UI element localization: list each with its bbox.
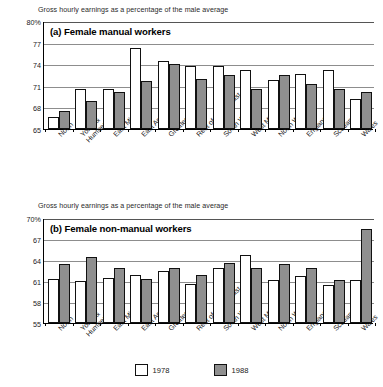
bar-1978 (158, 61, 169, 129)
bar-group (210, 219, 238, 323)
bar-group (73, 22, 101, 129)
bar-group (45, 22, 73, 129)
bar-1978 (350, 280, 361, 323)
chart-a-caption: Gross hourly earnings as a percentage of… (38, 6, 228, 14)
bar-1988 (279, 75, 290, 129)
bar-group (238, 219, 266, 323)
legend-swatch-1978 (135, 364, 148, 376)
bar-1988 (306, 84, 317, 129)
legend-label-1978: 1978 (153, 366, 170, 375)
bar-1988 (169, 64, 180, 129)
bar-1978 (130, 48, 141, 129)
chart-b-caption: Gross hourly earnings as a percentage of… (38, 202, 228, 210)
chart-a-bars (45, 22, 373, 129)
bar-group (183, 22, 211, 129)
bar-1988 (169, 268, 180, 323)
bar-1978 (158, 271, 169, 324)
bar-1978 (213, 268, 224, 323)
bar-group (100, 219, 128, 323)
y-axis-tick-label: 55 (33, 320, 41, 329)
y-axis-tick-label: 70% (27, 215, 41, 224)
bar-1988 (114, 92, 125, 129)
bar-1978 (350, 99, 361, 129)
legend-item-1988: 1988 (214, 364, 249, 376)
bar-group (265, 219, 293, 323)
bar-1978 (268, 280, 279, 323)
bar-1978 (295, 74, 306, 129)
bar-1988 (141, 81, 152, 129)
bar-1978 (75, 89, 86, 129)
bar-group (100, 22, 128, 129)
bar-group (128, 219, 156, 323)
bar-1988 (114, 268, 125, 323)
bar-1988 (224, 75, 235, 129)
bar-1988 (361, 229, 372, 324)
chart-panel-a: Gross hourly earnings as a percentage of… (0, 0, 383, 196)
bar-1978 (295, 276, 306, 323)
y-axis-tick-label: 68 (33, 104, 41, 113)
bar-1978 (103, 89, 114, 129)
chart-a-x-axis-labels: NorthYorks &HumbersideEast MidlandsEast … (43, 131, 383, 189)
bar-1988 (251, 268, 262, 323)
bar-group (320, 219, 348, 323)
bar-group (183, 219, 211, 323)
y-axis-tick-label: 67 (33, 236, 41, 245)
bar-1988 (279, 264, 290, 324)
y-axis-tick-label: 65 (33, 126, 41, 135)
bar-group (348, 22, 376, 129)
bar-group (128, 22, 156, 129)
bar-1978 (268, 80, 279, 129)
legend-item-1978: 1978 (135, 364, 170, 376)
bar-group (293, 219, 321, 323)
bar-group (155, 22, 183, 129)
bar-1978 (48, 117, 59, 129)
legend-swatch-1988 (214, 364, 227, 376)
bar-1988 (306, 268, 317, 323)
bar-group (238, 22, 266, 129)
bar-group (210, 22, 238, 129)
bar-1988 (86, 257, 97, 323)
bar-group (293, 22, 321, 129)
bar-1978 (103, 278, 114, 323)
y-axis-tick-label: 80% (27, 18, 41, 27)
bar-1978 (185, 66, 196, 129)
bar-1978 (130, 275, 141, 323)
chart-b-plot-area: (b) Female non-manual workers 5558616467… (43, 219, 373, 324)
chart-legend: 1978 1988 (0, 359, 383, 381)
y-axis-tick-label: 74 (33, 61, 41, 70)
bar-1978 (75, 281, 86, 323)
y-axis-tick-label: 61 (33, 278, 41, 287)
y-axis-tick-label: 58 (33, 299, 41, 308)
bar-1978 (323, 285, 334, 323)
bar-1978 (240, 70, 251, 129)
y-axis-tick-label: 71 (33, 82, 41, 91)
bar-group (155, 219, 183, 323)
bar-1988 (334, 280, 345, 323)
bar-1988 (196, 79, 207, 129)
y-axis-tick-label: 77 (33, 39, 41, 48)
bar-1988 (59, 264, 70, 324)
bar-1978 (48, 279, 59, 323)
bar-1988 (196, 275, 207, 323)
bar-1988 (251, 89, 262, 129)
bar-1978 (240, 255, 251, 323)
y-axis-tick-label: 64 (33, 257, 41, 266)
legend-label-1988: 1988 (232, 366, 249, 375)
bar-1988 (334, 89, 345, 129)
bar-group (320, 22, 348, 129)
chart-b-bars (45, 219, 373, 323)
bar-group (73, 219, 101, 323)
bar-1978 (323, 70, 334, 129)
bar-group (265, 22, 293, 129)
bar-1988 (141, 279, 152, 323)
bar-group (348, 219, 376, 323)
bar-1988 (224, 263, 235, 323)
bar-1988 (361, 92, 372, 129)
bar-1978 (213, 66, 224, 129)
chart-a-plot-area: (a) Female manual workers 656871747780% (43, 22, 373, 130)
bar-group (45, 219, 73, 323)
bar-1978 (185, 284, 196, 323)
bar-1988 (59, 111, 70, 129)
bar-1988 (86, 101, 97, 129)
